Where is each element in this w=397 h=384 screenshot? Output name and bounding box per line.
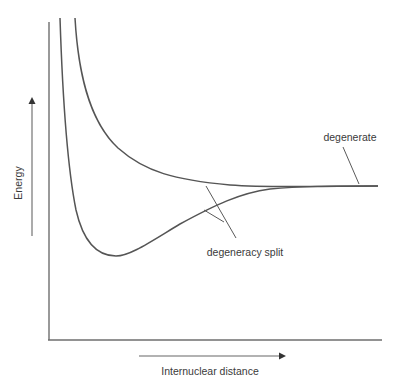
degenerate-pointer [343,147,359,184]
energy-arrow-head-icon [29,97,36,104]
energy-diagram: Energy Internuclear distance degenerate … [0,0,397,384]
antibonding-curve [75,18,378,187]
degenerate-label: degenerate [323,131,376,143]
degeneracy-split-pointer-upper [206,186,236,238]
degeneracy-split-label: degeneracy split [207,246,284,258]
x-axis-label: Internuclear distance [161,365,259,377]
y-axis-label: Energy [12,166,24,200]
distance-arrow-head-icon [279,353,286,360]
